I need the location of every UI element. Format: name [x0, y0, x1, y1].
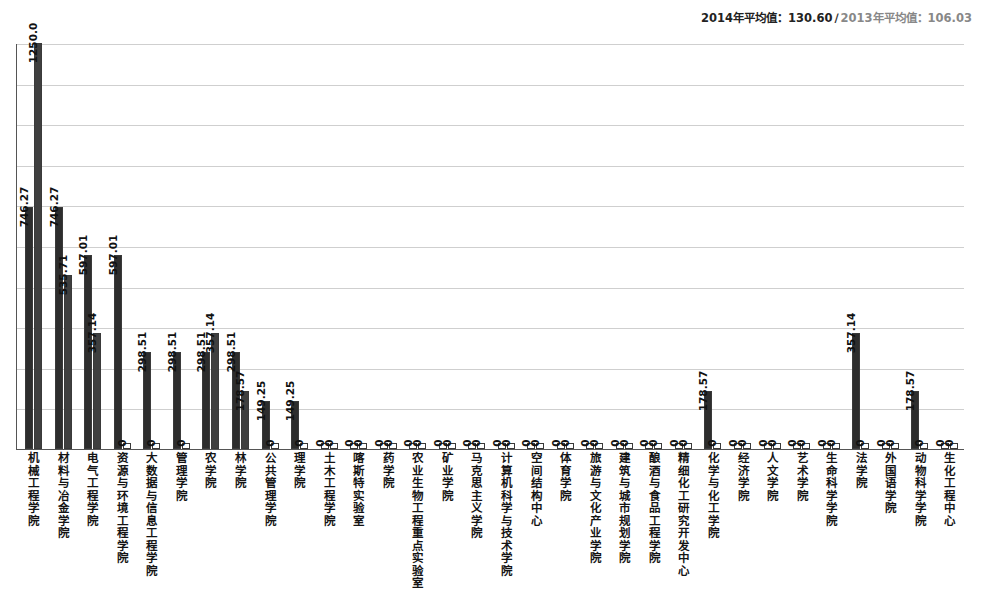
bar-2013: 0 [271, 443, 279, 449]
x-axis-label-text: 化学与化工学院 [706, 452, 719, 612]
x-axis-label-text: 建筑与城市规划学院 [618, 452, 631, 612]
x-axis-label-text: 旅游与文化产业学院 [588, 452, 601, 612]
x-axis-label-1: 材料与冶金学院 [48, 452, 78, 612]
bar-value-label: 298.51 [168, 332, 177, 373]
bar-value-label: 0 [147, 439, 156, 446]
bar-2013: 0 [832, 443, 840, 449]
x-axis-label-2: 电气工程学院 [77, 452, 107, 612]
x-axis-category-labels: 机械工程学院材料与冶金学院电气工程学院资源与环境工程学院大数据与信息工程学院管理… [16, 452, 964, 612]
x-axis-label-text: 管理学院 [174, 452, 187, 612]
bar-group: 00 [728, 44, 758, 449]
bar-2014: 746.27 [25, 207, 33, 449]
x-axis-label-20: 建筑与城市规划学院 [609, 452, 639, 612]
bar-group: 746.271250.0 [19, 44, 49, 449]
x-axis-label-22: 精细化工研究开发中心 [668, 452, 698, 612]
bar-value-label: 0 [708, 439, 717, 446]
bar-value-label: 0 [797, 439, 806, 446]
bar-value-label: 597.01 [79, 235, 88, 276]
x-axis-label-text: 酿酒与食品工程学院 [647, 452, 660, 612]
bar-2014: 298.51 [143, 352, 151, 449]
bar-2013: 0 [123, 443, 131, 449]
bar-group: 00 [816, 44, 846, 449]
bar-value-label: 0 [827, 439, 836, 446]
bar-group: 298.51357.14 [196, 44, 226, 449]
bar-value-label: 746.27 [50, 186, 59, 227]
bar-2013: 0 [625, 443, 633, 449]
x-axis-label-text: 法学院 [854, 452, 867, 612]
bar-2013: 0 [713, 443, 721, 449]
bar-group: 746.27535.71 [49, 44, 79, 449]
legend-item-2014: 2014年平均值：130.60 [701, 11, 832, 25]
bar-value-label: 357.14 [847, 313, 856, 354]
bar-value-label: 0 [118, 439, 127, 446]
x-axis-label-text: 大数据与信息工程学院 [145, 452, 158, 612]
x-axis-label-text: 生命科学学院 [825, 452, 838, 612]
x-axis-label-4: 大数据与信息工程学院 [136, 452, 166, 612]
bar-group: 00 [432, 44, 462, 449]
bar-2014: 357.14 [852, 333, 860, 449]
chart-page: 2014年平均值：130.60∕2013年平均值：106.03 746.2712… [0, 0, 990, 614]
bar-value-label: 178.57 [699, 371, 708, 412]
bar-group: 00 [639, 44, 669, 449]
bar-value-label: 149.25 [286, 380, 295, 421]
bar-2013: 0 [389, 443, 397, 449]
x-axis-label-29: 外国语学院 [875, 452, 905, 612]
bar-2014: 597.01 [114, 255, 122, 449]
bar-group: 00 [875, 44, 905, 449]
bar-2013: 0 [330, 443, 338, 449]
bar-2013: 0 [418, 443, 426, 449]
x-axis-label-16: 计算机科学与技术学院 [491, 452, 521, 612]
bar-group: 00 [403, 44, 433, 449]
x-axis-label-text: 空间结构中心 [529, 452, 542, 612]
x-axis-label-21: 酿酒与食品工程学院 [639, 452, 669, 612]
legend-item-2013: 2013年平均值：106.03 [841, 11, 972, 25]
bar-2014: 298.51 [202, 352, 210, 449]
bar-value-label: 0 [620, 439, 629, 446]
x-axis-label-7: 林学院 [225, 452, 255, 612]
x-axis-label-text: 电气工程学院 [86, 452, 99, 612]
bar-series-container: 746.271250.0746.27535.71597.01357.14597.… [17, 44, 964, 449]
bar-value-label: 0 [886, 439, 895, 446]
bar-value-label: 0 [856, 439, 865, 446]
bar-group: 298.510 [137, 44, 167, 449]
x-axis-label-30: 动物科学学院 [905, 452, 935, 612]
x-axis-label-23: 化学与化工学院 [698, 452, 728, 612]
x-axis-label-text: 喀斯特实验室 [352, 452, 365, 612]
x-axis-label-text: 药学院 [381, 452, 394, 612]
bar-group: 00 [669, 44, 699, 449]
bar-2013: 0 [743, 443, 751, 449]
x-axis-label-text: 艺术学院 [795, 452, 808, 612]
x-axis-label-24: 经济学院 [728, 452, 758, 612]
x-axis-label-28: 法学院 [846, 452, 876, 612]
bar-2013: 357.14 [211, 333, 219, 449]
bar-group: 00 [757, 44, 787, 449]
x-axis-label-25: 人文学院 [757, 452, 787, 612]
bar-value-label: 0 [915, 439, 924, 446]
x-axis-label-text: 外国语学院 [884, 452, 897, 612]
x-axis-label-text: 理学院 [293, 452, 306, 612]
bar-2013: 0 [920, 443, 928, 449]
x-axis-label-text: 生化工程中心 [943, 452, 956, 612]
x-axis-label-0: 机械工程学院 [18, 452, 48, 612]
x-axis-label-text: 计算机科学与技术学院 [500, 452, 513, 612]
x-axis-label-11: 喀斯特实验室 [343, 452, 373, 612]
bar-group: 178.570 [698, 44, 728, 449]
bar-2013: 0 [477, 443, 485, 449]
x-axis-label-text: 马克思主义学院 [470, 452, 483, 612]
bar-2013: 0 [802, 443, 810, 449]
x-axis-label-6: 农学院 [195, 452, 225, 612]
bar-2013: 0 [566, 443, 574, 449]
bar-2013: 0 [595, 443, 603, 449]
x-axis-label-8: 公共管理学院 [255, 452, 285, 612]
bar-2013: 0 [773, 443, 781, 449]
x-axis-label-31: 生化工程中心 [934, 452, 964, 612]
bar-value-label: 0 [590, 439, 599, 446]
x-axis-label-text: 精细化工研究开发中心 [677, 452, 690, 612]
bar-value-label: 0 [679, 439, 688, 446]
x-axis-label-text: 矿业学院 [440, 452, 453, 612]
bar-group: 00 [551, 44, 581, 449]
legend-separator: ∕ [832, 11, 840, 25]
x-axis-label-13: 农业生物工程重点实验室 [402, 452, 432, 612]
bar-value-label: 357.14 [206, 313, 215, 354]
bar-2013: 0 [359, 443, 367, 449]
